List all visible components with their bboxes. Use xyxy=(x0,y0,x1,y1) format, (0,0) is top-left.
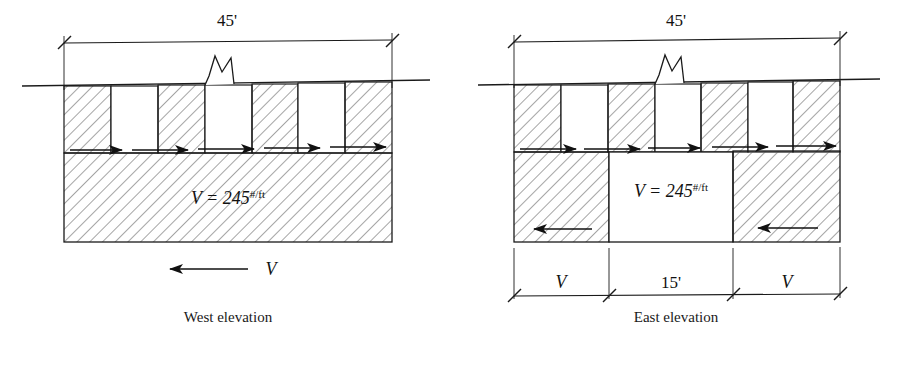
west-panel-5 xyxy=(252,84,298,153)
east-panel-1 xyxy=(514,85,561,152)
east-panel-7 xyxy=(793,81,840,152)
east-panel-4 xyxy=(655,84,701,152)
west-elevation-caption: West elevation xyxy=(184,309,273,325)
west-panel-3 xyxy=(158,85,205,153)
west-load-label-main: V = 245 xyxy=(191,188,250,208)
east-elevation-caption: East elevation xyxy=(634,309,719,325)
west-load-label-sup: #/ft xyxy=(250,188,265,200)
east-upper-wall xyxy=(514,81,840,152)
east-panel-6 xyxy=(748,82,793,152)
west-panel-6 xyxy=(298,83,345,153)
east-load-label-main: V = 245 xyxy=(634,181,693,201)
east-panel-2 xyxy=(561,85,608,152)
west-panel-4 xyxy=(205,85,252,153)
west-panel-1 xyxy=(64,86,111,153)
east-top-dimension-label: 45' xyxy=(666,11,686,30)
shear-wall-elevations-figure: 45' xyxy=(0,0,898,370)
west-upper-wall xyxy=(64,82,392,153)
east-panel-3 xyxy=(608,84,655,152)
east-load-label-sup: #/ft xyxy=(693,181,708,193)
west-panel-7 xyxy=(345,82,392,153)
west-top-dimension-label: 45' xyxy=(217,11,237,30)
west-panel-2 xyxy=(111,86,158,153)
east-dimension-label-middle: 15' xyxy=(661,273,681,292)
east-panel-5 xyxy=(701,83,748,152)
